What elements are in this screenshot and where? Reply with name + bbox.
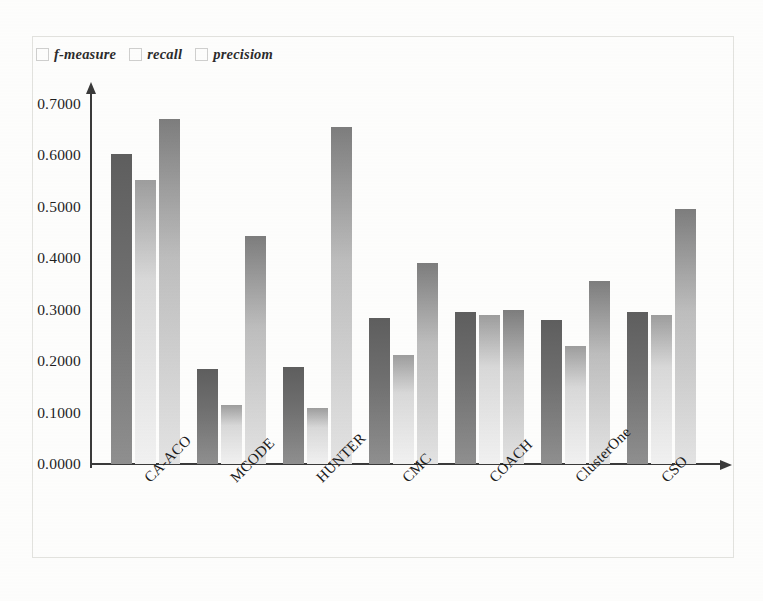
bar-group: [188, 104, 274, 464]
bar[interactable]: [307, 408, 328, 464]
y-axis-tick-label: 0.2000: [37, 352, 81, 370]
bar[interactable]: [197, 369, 218, 464]
legend-item-precision: precisiom: [195, 46, 273, 63]
legend-label-f-measure: f-measure: [54, 46, 116, 63]
bar[interactable]: [283, 367, 304, 464]
bar[interactable]: [159, 119, 180, 464]
y-axis-tick-label: 0.3000: [37, 301, 81, 319]
y-axis-arrow-icon: [86, 82, 96, 94]
y-axis-tick-label: 0.6000: [37, 146, 81, 164]
y-axis-tick-label: 0.7000: [37, 95, 81, 113]
x-axis-label-cell: COACH: [447, 468, 533, 554]
x-axis-label-cell: ClusterOne: [533, 468, 619, 554]
bar[interactable]: [455, 312, 476, 464]
plot-area: 0.00000.10000.20000.30000.40000.50000.60…: [90, 104, 705, 464]
bar-group: [447, 104, 533, 464]
x-axis-arrow-icon: [720, 460, 732, 470]
bar-group: [102, 104, 188, 464]
bar[interactable]: [651, 315, 672, 464]
bar[interactable]: [675, 209, 696, 464]
y-axis-tick-label: 0.4000: [37, 249, 81, 267]
x-axis-label-cell: MCODE: [188, 468, 274, 554]
bar-group: [360, 104, 446, 464]
bar[interactable]: [221, 405, 242, 464]
y-axis-tick-label: 0.1000: [37, 404, 81, 422]
bar[interactable]: [479, 315, 500, 464]
bar[interactable]: [369, 318, 390, 464]
legend-swatch-precision-icon: [195, 48, 208, 61]
chart-legend: f-measure recall precisiom: [36, 45, 273, 63]
legend-swatch-recall-icon: [129, 48, 142, 61]
bar-group: [619, 104, 705, 464]
legend-item-f-measure: f-measure: [36, 46, 116, 63]
legend-label-precision: precisiom: [213, 46, 273, 63]
x-axis-category-labels: CA-ACOMCODEHUNTERCMCCOACHClusterOneCSO: [90, 468, 705, 554]
x-axis-label-cell: CSO: [619, 468, 705, 554]
bar[interactable]: [135, 180, 156, 464]
bar[interactable]: [627, 312, 648, 464]
legend-item-recall: recall: [129, 46, 182, 63]
bar-groups: [90, 104, 705, 464]
bar-group: [533, 104, 619, 464]
x-axis-label-cell: CA-ACO: [102, 468, 188, 554]
bar[interactable]: [565, 346, 586, 464]
legend-swatch-f-measure-icon: [36, 48, 49, 61]
bar[interactable]: [331, 127, 352, 464]
y-axis-tick-label: 0.0000: [37, 455, 81, 473]
bar[interactable]: [589, 281, 610, 464]
bar[interactable]: [245, 236, 266, 464]
x-axis-label-cell: CMC: [360, 468, 446, 554]
legend-label-recall: recall: [147, 46, 182, 63]
bar-group: [274, 104, 360, 464]
bar[interactable]: [417, 263, 438, 464]
x-axis-label-cell: HUNTER: [274, 468, 360, 554]
bar[interactable]: [111, 154, 132, 464]
y-axis-tick-label: 0.5000: [37, 198, 81, 216]
bar[interactable]: [541, 320, 562, 464]
bar[interactable]: [393, 355, 414, 464]
scanned-page: f-measure recall precisiom 0.00000.10000…: [0, 0, 763, 601]
